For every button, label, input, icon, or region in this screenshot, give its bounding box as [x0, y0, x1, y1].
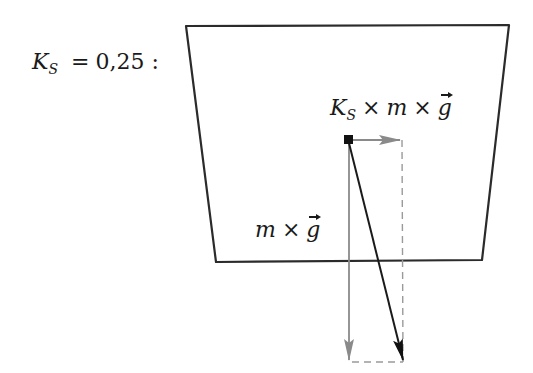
resultant-force-arrow	[349, 143, 403, 360]
times-sign: ×	[276, 217, 306, 242]
coefficient-symbol: K	[32, 49, 48, 74]
mass-symbol: m	[386, 95, 407, 120]
gravity-vector-symbol: g	[438, 97, 452, 119]
coefficient-label: KS =0,25 :	[32, 51, 159, 73]
coef-symbol: K	[330, 95, 346, 120]
colon: :	[151, 49, 158, 74]
times-sign: ×	[356, 95, 386, 120]
dashed-guide-vertical	[402, 140, 403, 362]
coefficient-value: 0,25	[95, 49, 144, 74]
coefficient-subscript: S	[48, 61, 58, 77]
gravity-vector-symbol: g	[306, 219, 320, 241]
equals-sign: =	[65, 49, 95, 74]
weight-force-label: m×g	[255, 219, 320, 241]
mass-point	[344, 135, 353, 144]
horizontal-force-label: KS×m×g	[330, 97, 452, 119]
mass-symbol: m	[255, 217, 276, 242]
times-sign: ×	[407, 95, 437, 120]
coef-subscript: S	[346, 107, 356, 123]
